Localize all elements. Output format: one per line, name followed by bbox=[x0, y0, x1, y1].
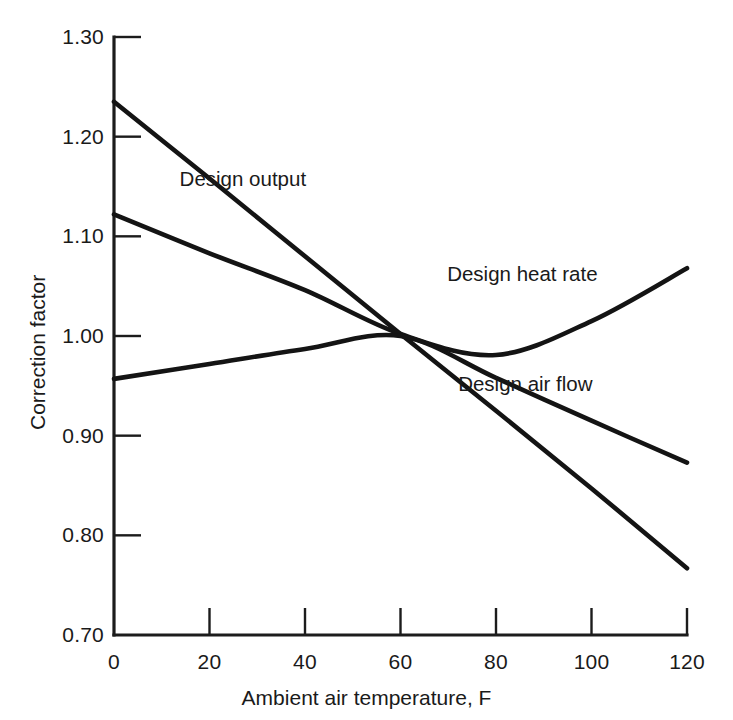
x-axis-title: Ambient air temperature, F bbox=[0, 686, 733, 710]
y-axis-tick-label-text: 1.00 bbox=[62, 324, 104, 348]
x-axis-tick-label: 40 bbox=[275, 650, 335, 674]
y-axis-tick-label: 0.70 bbox=[30, 623, 104, 647]
series-label-design-air-flow: Design air flow bbox=[458, 372, 592, 396]
y-axis-tick-label: 1.20 bbox=[30, 125, 104, 149]
x-axis-tick-label: 80 bbox=[466, 650, 526, 674]
y-axis-tick-label-text: 0.90 bbox=[62, 424, 104, 448]
y-axis-tick-label-text: 1.10 bbox=[62, 224, 104, 248]
x-axis-tick-label: 120 bbox=[657, 650, 717, 674]
x-axis-tick-label: 100 bbox=[562, 650, 622, 674]
y-axis-tick-label: 1.30 bbox=[30, 25, 104, 49]
chart-plot-area bbox=[0, 0, 733, 720]
y-axis-tick-label-text: 1.30 bbox=[62, 25, 104, 49]
y-axis-ticks bbox=[114, 137, 141, 536]
y-axis-tick-label-text: 0.70 bbox=[62, 623, 104, 647]
y-axis-tick-label-text: 1.20 bbox=[62, 125, 104, 149]
x-axis-tick-label: 20 bbox=[180, 650, 240, 674]
x-axis-tick-label: 0 bbox=[84, 650, 144, 674]
x-axis-tick-label: 60 bbox=[371, 650, 431, 674]
x-axis-ticks bbox=[210, 608, 592, 635]
series-label-design-heat-rate: Design heat rate bbox=[447, 262, 597, 286]
y-axis-tick-label: 1.10 bbox=[30, 224, 104, 248]
y-axis-tick-label-text: 0.80 bbox=[62, 523, 104, 547]
y-axis-title: Correction factor bbox=[26, 275, 50, 430]
series-label-design-output: Design output bbox=[180, 167, 307, 191]
series-line-design-air-flow bbox=[114, 335, 687, 463]
chart-figure: 0.700.800.901.001.101.201.30 02040608010… bbox=[0, 0, 733, 720]
y-axis-tick-label: 0.80 bbox=[30, 523, 104, 547]
